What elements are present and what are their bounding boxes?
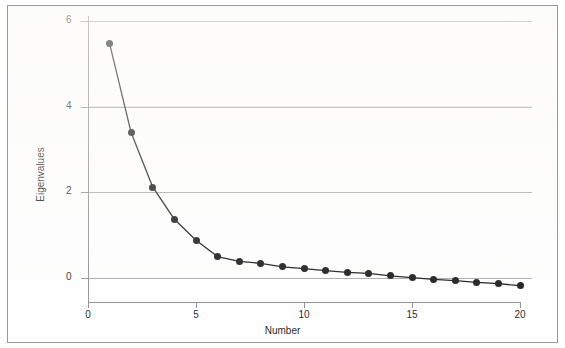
y-axis-label-text: Eigenvalues xyxy=(35,147,46,201)
data-point-7 xyxy=(236,258,243,265)
data-point-11 xyxy=(322,267,329,274)
data-point-10 xyxy=(301,265,308,272)
y-axis-label: Eigenvalues xyxy=(32,0,48,348)
data-point-9 xyxy=(279,263,286,270)
x-axis-label: Number xyxy=(0,325,565,336)
gridline-y-0 xyxy=(88,278,532,279)
scree-plot-figure: 0246 05101520 Eigenvalues Number xyxy=(0,0,565,348)
x-tick-label-20: 20 xyxy=(514,309,525,320)
series-line xyxy=(0,0,565,348)
x-tick-0 xyxy=(88,302,89,308)
data-point-18 xyxy=(473,279,480,286)
y-tick-label-4: 4 xyxy=(66,100,72,111)
gridline-y-2 xyxy=(88,192,532,193)
x-tick-label-5: 5 xyxy=(193,309,199,320)
data-point-6 xyxy=(214,253,221,260)
x-tick-5 xyxy=(196,302,197,308)
y-tick-label-6: 6 xyxy=(66,14,72,25)
y-tick-6 xyxy=(81,21,88,22)
y-tick-label-0: 0 xyxy=(66,271,72,282)
data-point-1 xyxy=(106,40,113,47)
y-axis-line xyxy=(88,16,89,303)
data-point-17 xyxy=(452,277,459,284)
x-tick-20 xyxy=(520,302,521,308)
gridline-y-4 xyxy=(88,107,532,108)
data-point-15 xyxy=(409,274,416,281)
data-point-12 xyxy=(344,269,351,276)
data-point-2 xyxy=(128,129,135,136)
x-tick-10 xyxy=(304,302,305,308)
x-tick-15 xyxy=(412,302,413,308)
data-point-16 xyxy=(430,276,437,283)
data-point-3 xyxy=(149,184,156,191)
x-tick-label-0: 0 xyxy=(85,309,91,320)
y-tick-4 xyxy=(81,107,88,108)
y-tick-label-2: 2 xyxy=(66,185,72,196)
gridline-y-6 xyxy=(88,21,532,22)
data-point-8 xyxy=(257,260,264,267)
x-tick-label-10: 10 xyxy=(298,309,309,320)
data-point-20 xyxy=(517,282,524,289)
plot-area: 0246 05101520 Eigenvalues Number xyxy=(0,0,565,348)
data-point-13 xyxy=(365,270,372,277)
y-tick-0 xyxy=(81,278,88,279)
y-tick-2 xyxy=(81,192,88,193)
data-point-4 xyxy=(171,216,178,223)
data-point-5 xyxy=(193,237,200,244)
x-tick-label-15: 15 xyxy=(406,309,417,320)
data-point-19 xyxy=(495,280,502,287)
